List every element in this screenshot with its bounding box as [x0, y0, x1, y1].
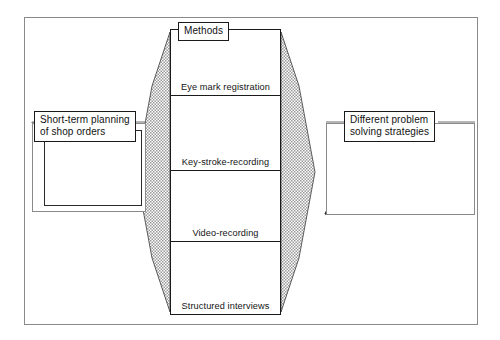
method-structured-interviews: Structured interviews [171, 242, 280, 314]
right-caption-line2: solving strategies [350, 126, 429, 138]
method-label-eye-mark-registration: Eye mark registration [171, 82, 280, 92]
left-panel-caption-box: Short-term planning of shop orders [34, 111, 136, 142]
right-caption-line1: Different problem [350, 114, 429, 126]
methods-caption-box: Methods [178, 22, 229, 41]
method-label-video-recording: Video-recording [171, 228, 280, 238]
video-recording-art [171, 171, 280, 227]
right-panel-caption-box: Different problem solving strategies [344, 111, 435, 142]
left-caption-line2: of shop orders [40, 126, 130, 138]
method-key-stroke-recording: Key-stroke-recording [171, 96, 280, 171]
method-label-structured-interviews: Structured interviews [171, 301, 280, 311]
left-caption-line1: Short-term planning [40, 114, 130, 126]
figure-canvas: ? Eye mark registration Key-stroke-recor… [0, 0, 500, 340]
methods-caption-text: Methods [184, 25, 223, 36]
methods-panel: Eye mark registration Key-stroke-recordi… [170, 29, 281, 315]
structured-interviews-art [171, 242, 280, 300]
key-stroke-recording-art [171, 96, 280, 156]
method-video-recording: Video-recording [171, 171, 280, 242]
method-label-key-stroke-recording: Key-stroke-recording [171, 157, 280, 167]
